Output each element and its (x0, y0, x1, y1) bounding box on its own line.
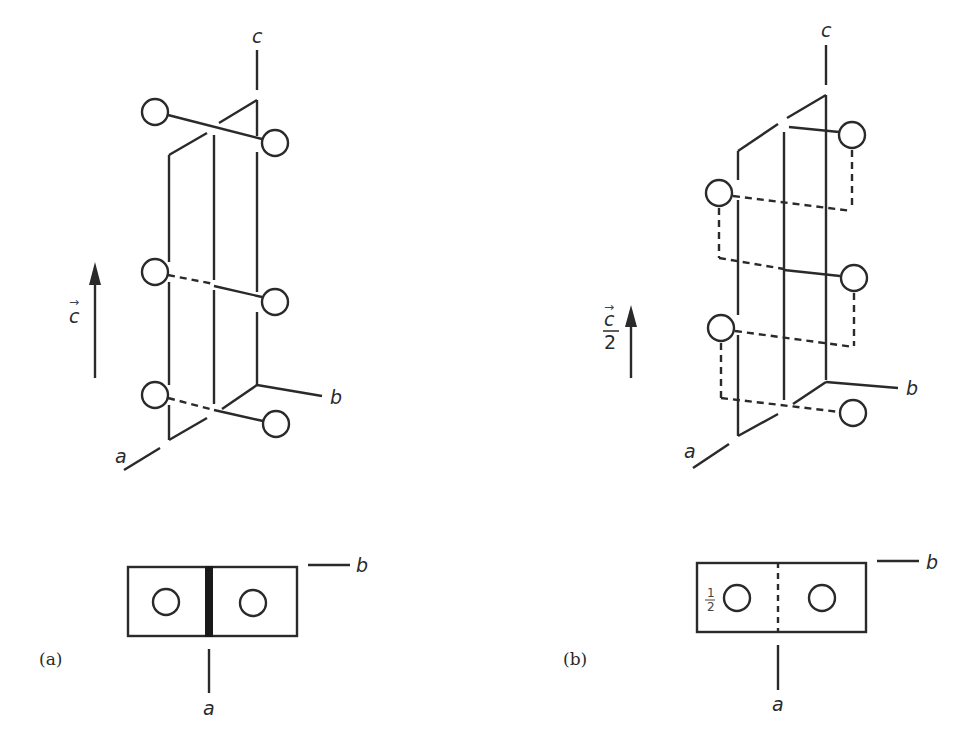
plane-top-edge (169, 133, 207, 155)
c-axis-label: c (821, 19, 832, 41)
atom (839, 122, 865, 148)
bond-top (789, 127, 839, 132)
panel-a-perspective: c b a (115, 25, 342, 470)
crystallography-figure: c b a (0, 0, 961, 743)
a-axis-line (693, 444, 729, 468)
atom-projection (809, 585, 835, 611)
plane-top-edge (738, 124, 778, 151)
bond-mid-back (168, 275, 214, 284)
plane-top-edge (787, 95, 826, 118)
b-axis-line (826, 382, 898, 388)
screw-path (733, 196, 852, 211)
plane-top-edge (219, 100, 257, 123)
atom (263, 411, 289, 437)
atom-projection (153, 589, 179, 615)
b-axis-label: b (330, 386, 342, 408)
panel-a-label: (a) (39, 649, 62, 669)
panel-b-label: (b) (563, 649, 587, 669)
bond-bot-front (214, 410, 263, 421)
translation-arrow-b: → c 2 (603, 300, 637, 378)
panel-b-perspective: c b a (684, 19, 918, 468)
atom (708, 315, 734, 341)
a-axis-line (124, 448, 160, 470)
a-axis-label: a (684, 440, 696, 462)
bond-mid (784, 270, 840, 276)
atom (706, 180, 732, 206)
atom-projection (724, 585, 750, 611)
panel-a-projection: b a (a) (39, 554, 368, 719)
a-axis-label: a (772, 693, 784, 715)
atom-projection (240, 590, 266, 616)
b-axis-label: b (906, 377, 918, 399)
unit-cell-projection (697, 563, 866, 632)
plane-bottom-edge (738, 414, 778, 436)
b-axis-label: b (926, 551, 938, 573)
atom (840, 400, 866, 426)
panel-b-projection: 1 2 b a (b) (563, 551, 938, 715)
vector-mark: → (69, 295, 79, 309)
bond-mid-front (214, 286, 262, 297)
atom (142, 99, 168, 125)
a-axis-label: a (115, 445, 127, 467)
arrow-label-numerator: c (604, 308, 615, 330)
height-label-numerator: 1 (707, 586, 715, 600)
screw-path (719, 258, 784, 269)
atom (262, 130, 288, 156)
plane-bottom-edge (793, 382, 826, 404)
b-axis-line (257, 385, 322, 396)
atom (262, 289, 288, 315)
arrow-head-icon (89, 262, 101, 285)
plane-bottom-edge (222, 385, 257, 409)
arrow-head-icon (625, 305, 637, 327)
c-axis-label: c (252, 25, 263, 47)
atom (142, 382, 168, 408)
arrow-label-denominator: 2 (604, 331, 616, 353)
height-label-denominator: 2 (707, 600, 715, 614)
plane-bottom-edge (169, 418, 207, 440)
b-axis-label: b (356, 554, 368, 576)
atom (142, 259, 168, 285)
atom (841, 265, 867, 291)
a-axis-label: a (203, 697, 215, 719)
translation-arrow-a: c → (69, 262, 101, 378)
screw-path (735, 331, 854, 347)
bond-bot-back (168, 398, 214, 410)
